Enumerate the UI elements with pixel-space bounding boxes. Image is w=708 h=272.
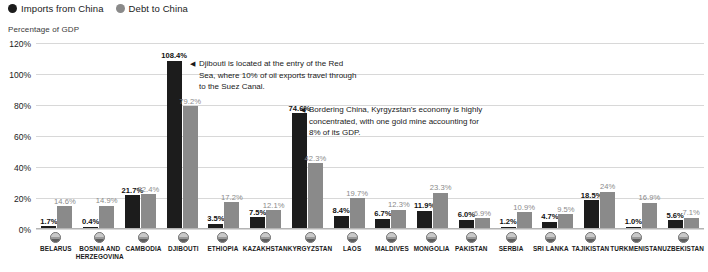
country-flag-icon <box>426 232 437 243</box>
x-axis-category-bosnia-and-herzegovina[interactable]: BOSNIA AND HERZEGOVINA <box>76 230 124 272</box>
bar-debt[interactable]: 9.5% <box>558 214 573 229</box>
bar-debt[interactable]: 12.1% <box>266 210 281 229</box>
y-axis-tick-label: 100% <box>9 70 31 80</box>
bar-group[interactable]: 21.7%22.4% <box>120 43 162 229</box>
bar-value-label: 42.3% <box>305 155 327 163</box>
bar-imports[interactable]: 21.7% <box>125 195 140 229</box>
x-axis-tick-label: CAMBODIA <box>126 245 162 253</box>
bar-debt[interactable]: 24% <box>600 192 615 229</box>
y-axis-tick-label: 120% <box>9 39 31 49</box>
x-axis-category-uzbekistan[interactable]: UZBEKISTAN <box>662 230 704 272</box>
x-axis-tick-label: MALDIVES <box>375 245 409 253</box>
x-axis-category-kazakhstan[interactable]: KAZAKHSTAN <box>243 230 288 272</box>
x-axis-category-djibouti[interactable]: DJIBOUTI <box>163 230 203 272</box>
x-axis-category-tajikistan[interactable]: TAJIKISTAN <box>571 230 611 272</box>
legend-item-imports: Imports from China <box>8 3 104 14</box>
bar-value-label: 11.9% <box>414 202 435 210</box>
bar-debt[interactable]: 12.3% <box>391 210 406 229</box>
x-axis-category-laos[interactable]: LAOS <box>332 230 372 272</box>
bar-value-label: 14.6% <box>54 198 76 206</box>
bar-value-label: 19.7% <box>346 190 368 198</box>
legend-item-debt: Debt to China <box>116 3 188 14</box>
bar-debt[interactable]: 10.9% <box>517 212 532 229</box>
bar-value-label: 10.9% <box>513 204 535 212</box>
bar-debt[interactable]: 79.2% <box>183 106 198 229</box>
bar-group[interactable]: 4.7%9.5% <box>537 43 579 229</box>
x-axis-category-belarus[interactable]: BELARUS <box>36 230 76 272</box>
legend-label-debt: Debt to China <box>129 3 188 14</box>
bar-debt[interactable]: 42.3% <box>308 163 323 229</box>
chart-container: Imports from China Debt to China Percent… <box>0 0 708 272</box>
x-axis-category-sri-lanka[interactable]: SRI LANKA <box>531 230 571 272</box>
bar-value-label: 5.6% <box>666 212 683 220</box>
bar-value-label: 16.9% <box>639 194 661 202</box>
x-axis-categories: BELARUSBOSNIA AND HERZEGOVINACAMBODIADJI… <box>36 230 704 272</box>
bar-imports[interactable]: 11.9% <box>417 211 432 229</box>
x-axis-tick-label: LAOS <box>343 245 361 253</box>
bar-value-label: 1.7% <box>40 218 57 226</box>
bar-group[interactable]: 1.2%10.9% <box>495 43 537 229</box>
axis-baseline <box>36 228 704 229</box>
bar-debt[interactable]: 14.6% <box>57 206 72 229</box>
annotation-marker-icon: ◀ <box>300 104 305 139</box>
filled-circle-icon <box>8 4 17 13</box>
country-flag-icon <box>585 232 596 243</box>
bar-value-label: 24% <box>600 183 615 191</box>
x-axis-tick-label: BOSNIA AND HERZEGOVINA <box>76 245 124 261</box>
x-axis-category-serbia[interactable]: SERBIA <box>491 230 531 272</box>
bar-value-label: 1.0% <box>625 218 642 226</box>
bar-value-label: 7.1% <box>682 209 699 217</box>
bar-value-label: 4.7% <box>541 213 558 221</box>
y-axis-tick-label: 40% <box>14 163 31 173</box>
bar-imports[interactable]: 108.4% <box>167 61 182 229</box>
x-axis-tick-label: KAZAKHSTAN <box>243 245 288 253</box>
bar-debt[interactable]: 19.7% <box>350 198 365 229</box>
country-flag-icon <box>305 232 316 243</box>
bar-debt[interactable]: 14.9% <box>99 206 114 229</box>
x-axis-category-pakistan[interactable]: PAKISTAN <box>451 230 491 272</box>
bar-value-label: 79.2% <box>179 98 201 106</box>
bar-value-label: 0.4% <box>82 218 99 226</box>
bar-value-label: 6.0% <box>458 211 475 219</box>
x-axis-category-cambodia[interactable]: CAMBODIA <box>124 230 164 272</box>
country-flag-icon <box>545 232 556 243</box>
country-flag-icon <box>178 232 189 243</box>
x-axis-category-mongolia[interactable]: MONGOLIA <box>412 230 452 272</box>
bar-group[interactable]: 18.5%24% <box>579 43 621 229</box>
bar-value-label: 23.3% <box>430 184 452 192</box>
bar-imports[interactable]: 18.5% <box>584 200 599 229</box>
bar-value-label: 22.4% <box>138 186 160 194</box>
bar-value-label: 1.2% <box>499 218 516 226</box>
y-axis-tick-label: 20% <box>14 194 31 204</box>
bar-debt[interactable]: 23.3% <box>433 193 448 229</box>
country-flag-icon <box>386 232 397 243</box>
bar-debt[interactable]: 17.2% <box>224 202 239 229</box>
x-axis-category-ethiopia[interactable]: ETHIOPIA <box>203 230 243 272</box>
bar-value-label: 6.7% <box>374 210 391 218</box>
country-flag-icon <box>94 232 105 243</box>
x-axis-tick-label: ETHIOPIA <box>207 245 238 253</box>
x-axis-tick-label: TURKMENISTAN <box>610 245 662 253</box>
x-axis-tick-label: BELARUS <box>40 245 72 253</box>
x-axis-category-turkmenistan[interactable]: TURKMENISTAN <box>610 230 662 272</box>
bar-value-label: 17.2% <box>221 194 243 202</box>
x-axis-category-maldives[interactable]: MALDIVES <box>372 230 412 272</box>
country-flag-icon <box>506 232 517 243</box>
bar-value-label: 3.5% <box>207 215 224 223</box>
annotation-djibouti: ◀ Djibouti is located at the entry of th… <box>190 58 360 93</box>
y-axis-tick-label: 60% <box>14 132 31 142</box>
bar-debt[interactable]: 16.9% <box>642 203 657 229</box>
country-flag-icon <box>217 232 228 243</box>
chart-legend: Imports from China Debt to China <box>8 3 188 14</box>
x-axis-tick-label: SERBIA <box>499 245 524 253</box>
bar-value-label: 12.3% <box>388 201 410 209</box>
bar-group[interactable]: 1.0%16.9% <box>621 43 663 229</box>
bar-debt[interactable]: 22.4% <box>141 194 156 229</box>
x-axis-tick-label: TAJIKISTAN <box>572 245 610 253</box>
x-axis-category-kyrgyzstan[interactable]: KYRGYZSTAN <box>288 230 333 272</box>
bar-group[interactable]: 1.7%14.6% <box>36 43 78 229</box>
country-flag-icon <box>347 232 358 243</box>
bar-value-label: 108.4% <box>161 52 187 60</box>
bar-group[interactable]: 5.6%7.1% <box>662 43 704 229</box>
bar-group[interactable]: 0.4%14.9% <box>78 43 120 229</box>
